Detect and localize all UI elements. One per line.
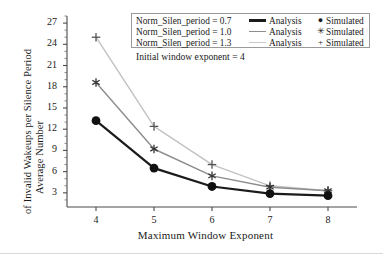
x-tick-label: 6: [200, 214, 224, 225]
legend-condition-label: Norm_Silen_period = 0.7: [136, 16, 249, 26]
y-tick-label: 21: [33, 59, 57, 70]
legend-condition-label: Norm_Silen_period = 1.0: [136, 27, 249, 37]
y-tick-label: 9: [33, 143, 57, 154]
asterisk-marker-icon: ✳: [315, 27, 326, 36]
chart-annotation: Initial window exponent = 4: [136, 51, 245, 62]
y-tick-label: 27: [33, 16, 57, 27]
x-axis-title-text: Maximum Window Exponent: [138, 229, 273, 241]
legend-simulated-label: Simulated: [326, 16, 364, 26]
x-tick-label: 8: [316, 214, 340, 225]
data-point-circle: [92, 116, 101, 125]
y-tick-label: 15: [33, 101, 57, 112]
chart-figure: Average Number of Invalid Wakeups per Si…: [0, 0, 383, 261]
legend-condition-label: Norm_Silen_period = 1.3: [136, 38, 249, 48]
legend-row: Norm_Silen_period = 1.3 Analysis + Simul…: [136, 37, 366, 48]
y-axis-title-line2: of Invalid Wakeups per Silence Period: [22, 49, 33, 214]
legend-row: Norm_Silen_period = 1.0 Analysis ✳ Simul…: [136, 26, 366, 37]
legend-analysis-label: Analysis: [269, 38, 315, 48]
legend-analysis-label: Analysis: [269, 27, 315, 37]
data-point-circle: [150, 164, 159, 173]
x-tick-label: 7: [258, 214, 282, 225]
legend-line-swatch: [249, 16, 266, 26]
x-axis-title: Maximum Window Exponent: [0, 229, 383, 241]
y-tick-label: 12: [33, 122, 57, 133]
data-point-circle: [266, 189, 275, 198]
data-point-circle: [208, 182, 217, 191]
data-point-circle: [324, 191, 333, 200]
circle-marker-icon: ●: [315, 16, 326, 25]
plus-marker-icon: +: [315, 38, 326, 47]
legend-simulated-label: Simulated: [326, 27, 364, 37]
legend-line-swatch: [249, 27, 266, 37]
y-tick-label: 3: [33, 186, 57, 197]
legend-row: Norm_Silen_period = 0.7 Analysis ● Simul…: [136, 15, 366, 26]
legend-analysis-label: Analysis: [269, 16, 315, 26]
chart-legend: Norm_Silen_period = 0.7 Analysis ● Simul…: [131, 13, 370, 48]
y-tick-label: 24: [33, 37, 57, 48]
x-tick-label: 5: [142, 214, 166, 225]
y-tick-label: 18: [33, 80, 57, 91]
legend-simulated-label: Simulated: [326, 38, 364, 48]
legend-line-swatch: [249, 38, 266, 48]
scan-hairline: [0, 253, 383, 254]
x-tick-label: 4: [84, 214, 108, 225]
y-tick-label: 6: [33, 165, 57, 176]
